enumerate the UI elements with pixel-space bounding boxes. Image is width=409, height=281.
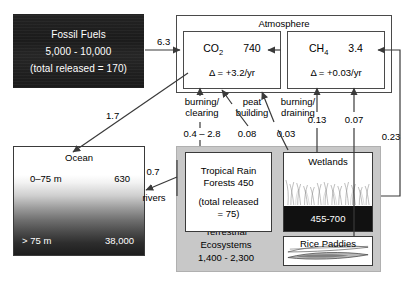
atmosphere-title: Atmosphere bbox=[177, 18, 391, 29]
flow-label-burning-clearing: burning/ clearing bbox=[176, 96, 228, 118]
co2-delta: Δ = +3.2/yr bbox=[209, 67, 255, 78]
ocean-deep-value: 38,000 bbox=[105, 235, 134, 246]
burning-clearing-line-2: clearing bbox=[176, 107, 228, 118]
arrow-rivers-to-ocean bbox=[146, 177, 177, 190]
co2-value: 740 bbox=[243, 42, 261, 54]
ocean-title: Ocean bbox=[14, 152, 144, 163]
ch4-label: CH4 bbox=[309, 42, 328, 54]
flow-label-wetlands-flux: 0.13 bbox=[304, 114, 330, 125]
wetlands-soil-band: 455-700 bbox=[284, 206, 372, 231]
co2-row: CO2740 bbox=[203, 42, 260, 57]
terrestrial-line-3: 1,400 - 2,300 bbox=[181, 251, 271, 264]
rain-forests-line-1: Tropical Rain bbox=[201, 165, 257, 177]
fossil-fuels-box: Fossil Fuels 5,000 - 10,000 (total relea… bbox=[13, 14, 144, 88]
ch4-delta: Δ = +0.03/yr bbox=[310, 67, 361, 78]
rain-forests-released: (total released = 75) bbox=[198, 196, 258, 220]
rice-paddies-title: Rice Paddies bbox=[284, 238, 372, 249]
fossil-fuels-amount: 5,000 - 10,000 bbox=[46, 46, 112, 57]
fossil-fuels-released: (total released = 170) bbox=[30, 63, 127, 74]
flow-label-fossil-to-atmosphere: 6.3 bbox=[157, 36, 170, 47]
ocean-deep-label: > 75 m bbox=[22, 235, 51, 246]
rain-forests-line-3: (total released bbox=[198, 196, 258, 208]
ocean-shallow-label: 0–75 m bbox=[30, 173, 62, 184]
peat-line-2: building bbox=[228, 107, 276, 118]
flow-label-rivers: rivers bbox=[137, 192, 171, 203]
atmosphere-box: Atmosphere CO2740 Δ = +3.2/yr CH43.4 Δ =… bbox=[176, 15, 392, 93]
rain-forests-name: Tropical Rain Forests 450 bbox=[201, 165, 257, 189]
ocean-shallow-row: 0–75 m 630 bbox=[30, 173, 130, 184]
ocean-box: Ocean 0–75 m 630 > 75 m 38,000 bbox=[13, 146, 145, 256]
flow-label-rivers-value: 0.7 bbox=[140, 166, 166, 177]
flow-label-peat-building: peat building bbox=[228, 96, 276, 118]
ch4-value: 3.4 bbox=[348, 42, 363, 54]
fossil-fuels-title: Fossil Fuels bbox=[51, 29, 106, 40]
flow-label-peat-value: 0.08 bbox=[233, 128, 261, 139]
wetlands-title: Wetlands bbox=[284, 156, 372, 167]
flow-label-burning-draining-value: 0.03 bbox=[272, 128, 300, 139]
co2-box: CO2740 Δ = +3.2/yr bbox=[183, 31, 281, 89]
ocean-shallow-value: 630 bbox=[114, 173, 130, 184]
wetlands-box: Wetlands bbox=[283, 152, 373, 232]
peat-line-1: peat bbox=[228, 96, 276, 107]
co2-label: CO2 bbox=[203, 42, 223, 54]
ch4-row: CH43.4 bbox=[309, 42, 363, 57]
wetland-grass-icon bbox=[284, 167, 372, 205]
flow-label-terrestrial-flux: 0.23 bbox=[377, 131, 405, 142]
flow-label-rice-flux: 0.07 bbox=[341, 114, 367, 125]
burning-draining-line-1: burning/ bbox=[272, 96, 324, 107]
ch4-box: CH43.4 Δ = +0.03/yr bbox=[287, 31, 385, 89]
wetlands-value: 455-700 bbox=[311, 213, 346, 224]
flow-label-atmosphere-to-ocean: 1.7 bbox=[106, 110, 119, 121]
tropical-rain-forests-box: Tropical Rain Forests 450 (total release… bbox=[185, 152, 272, 232]
rain-forests-line-2: Forests 450 bbox=[201, 177, 257, 189]
burning-clearing-line-1: burning/ bbox=[176, 96, 228, 107]
ocean-deep-row: > 75 m 38,000 bbox=[22, 235, 134, 246]
terrestrial-line-2: Ecosystems bbox=[181, 238, 271, 251]
rain-forests-line-4: = 75) bbox=[198, 208, 258, 220]
rice-paddies-box: Rice Paddies bbox=[283, 236, 373, 266]
carbon-cycle-diagram: Fossil Fuels 5,000 - 10,000 (total relea… bbox=[0, 0, 409, 281]
flow-label-burning-clearing-value: 0.4 – 2.8 bbox=[174, 128, 230, 139]
